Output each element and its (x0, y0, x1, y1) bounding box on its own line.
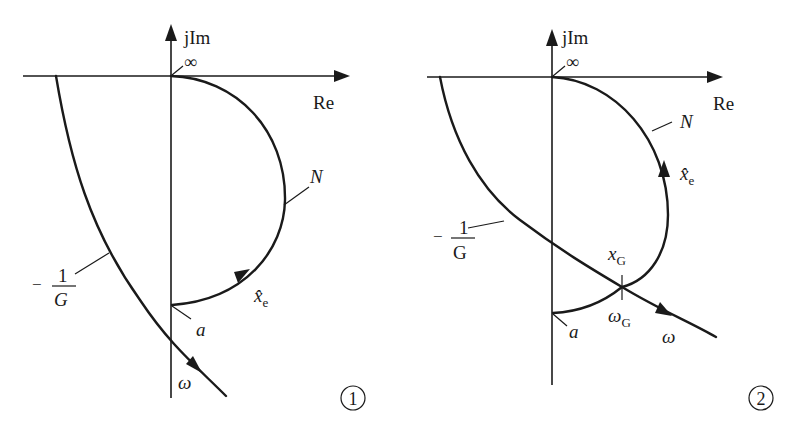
N-leader (284, 187, 309, 205)
infinity-label: ∞ (184, 52, 197, 72)
imag-axis-arrow-icon (546, 29, 558, 46)
linear-locus-curve (56, 76, 226, 396)
xG-label: xG (607, 243, 626, 268)
neg-inv-G-numerator: 1 (58, 265, 68, 286)
a-label: a (569, 321, 579, 342)
a-label: a (196, 319, 206, 340)
nonlinear-locus-curve (552, 77, 668, 313)
real-axis-arrow-icon (334, 70, 350, 82)
N-leader (652, 122, 672, 131)
neg-inv-G-sign: − (433, 227, 443, 246)
infinity-leader (172, 66, 183, 75)
neg-inv-G-numerator: 1 (459, 217, 469, 238)
neg-inv-G-leader (75, 253, 109, 274)
real-axis-label: Re (313, 92, 334, 113)
omega-label: ω (178, 372, 191, 393)
N-label: N (309, 166, 324, 187)
xe-label: x̂e (253, 285, 268, 310)
neg-inv-G-leader (468, 221, 504, 228)
imag-axis-label: jIm (561, 27, 589, 48)
omega-label: ω (662, 326, 675, 347)
infinity-label: ∞ (566, 52, 579, 72)
real-axis-arrow-icon (707, 71, 723, 83)
real-axis-label: Re (713, 93, 734, 114)
a-leader (553, 314, 567, 326)
linear-direction-arrow-icon (655, 302, 672, 316)
figure-2: jIm ∞ Re N x̂e a − 1 G xG ωG ω 2 (427, 27, 773, 410)
omegaG-label: ωG (608, 305, 631, 330)
neg-inv-G-denominator: G (453, 242, 467, 263)
neg-inv-G-sign: − (32, 275, 42, 294)
infinity-leader (553, 66, 565, 76)
xe-label: x̂e (679, 163, 694, 188)
linear-locus-curve (440, 77, 716, 337)
figure-number-label: 2 (757, 389, 766, 409)
imag-axis-arrow-icon (165, 24, 177, 41)
figure-1: jIm ∞ Re N x̂e a − 1 G ω 1 (23, 24, 365, 410)
N-label: N (679, 111, 694, 132)
imag-axis-label: jIm (183, 27, 211, 48)
a-leader (172, 306, 191, 319)
describing-function-diagram: jIm ∞ Re N x̂e a − 1 G ω 1 jIm ∞ (0, 0, 790, 435)
nonlinear-locus-curve (171, 76, 285, 305)
neg-inv-G-denominator: G (54, 289, 68, 310)
figure-number-label: 1 (349, 389, 358, 409)
